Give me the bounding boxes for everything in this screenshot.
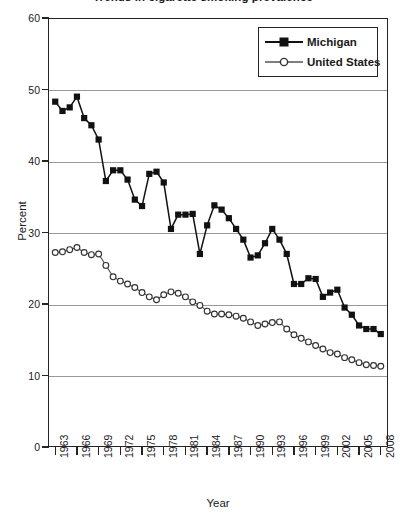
x-tick-label-1972: 1972 [124, 435, 134, 458]
x-axis-label: Year [48, 497, 388, 509]
legend-label-michigan: Michigan [304, 36, 357, 48]
x-tick-mark-1975 [141, 447, 142, 455]
legend-label-united-states: United States [304, 56, 381, 68]
y-tick-mark-30 [42, 232, 49, 233]
x-tick-mark-1981 [185, 447, 186, 455]
x-tick-mark-1987 [228, 447, 229, 455]
y-tick-mark-0 [42, 446, 49, 447]
x-tick-mark-1978 [163, 447, 164, 455]
x-tick-mark-1996 [293, 447, 294, 455]
x-tick-mark-2008 [380, 447, 381, 455]
x-tick-label-2008: 2008 [385, 435, 395, 458]
legend-marker-open-circle [264, 55, 304, 69]
y-tick-label-50: 50 [0, 85, 40, 95]
y-axis-label: Percent [16, 151, 28, 291]
x-tick-mark-1993 [272, 447, 273, 455]
x-tick-mark-1990 [250, 447, 251, 455]
x-tick-mark-1972 [120, 447, 121, 455]
x-tick-label-1999: 1999 [320, 435, 330, 458]
legend-item-united-states: United States [264, 52, 372, 72]
x-tick-label-1963: 1963 [59, 435, 69, 458]
y-tick-mark-20 [42, 303, 49, 304]
chart-figure: Trends in cigarette smoking prevalence P… [0, 0, 406, 523]
x-tick-mark-2002 [337, 447, 338, 455]
chart-legend: Michigan United States [258, 27, 378, 77]
x-tick-label-1978: 1978 [168, 435, 178, 458]
x-tick-mark-1999 [315, 447, 316, 455]
x-tick-mark-2005 [358, 447, 359, 455]
y-tick-label-0: 0 [0, 442, 40, 452]
x-tick-label-1993: 1993 [276, 435, 286, 458]
chart-title: Trends in cigarette smoking prevalence [0, 0, 406, 5]
y-tick-label-30: 30 [0, 228, 40, 238]
series-layer [48, 18, 388, 447]
x-tick-mark-1963 [55, 447, 56, 455]
x-tick-label-1975: 1975 [146, 435, 156, 458]
legend-item-michigan: Michigan [264, 32, 372, 52]
series-michigan [52, 94, 384, 338]
x-tick-mark-1966 [76, 447, 77, 455]
x-tick-label-1966: 1966 [81, 435, 91, 458]
x-tick-mark-1969 [98, 447, 99, 455]
y-tick-mark-10 [42, 375, 49, 376]
x-tick-label-2002: 2002 [341, 435, 351, 458]
y-tick-label-60: 60 [0, 13, 40, 23]
x-tick-label-1984: 1984 [211, 435, 221, 458]
y-tick-label-40: 40 [0, 156, 40, 166]
legend-marker-filled-square [264, 35, 304, 49]
x-tick-label-1990: 1990 [255, 435, 265, 458]
y-tick-label-10: 10 [0, 371, 40, 381]
y-tick-mark-60 [42, 17, 49, 18]
series-united-states [52, 245, 383, 369]
x-tick-label-1969: 1969 [103, 435, 113, 458]
y-tick-mark-40 [42, 160, 49, 161]
x-tick-label-1996: 1996 [298, 435, 308, 458]
x-tick-label-1987: 1987 [233, 435, 243, 458]
x-tick-mark-1984 [206, 447, 207, 455]
x-tick-label-2005: 2005 [363, 435, 373, 458]
x-tick-label-1981: 1981 [189, 435, 199, 458]
y-tick-mark-50 [42, 89, 49, 90]
y-tick-label-20: 20 [0, 299, 40, 309]
